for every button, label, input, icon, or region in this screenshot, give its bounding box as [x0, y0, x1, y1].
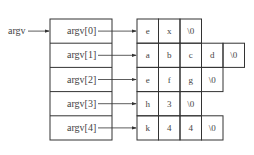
char-value: \0 [187, 99, 195, 109]
pointer-array-item: argv[2] [67, 74, 96, 85]
char-value: \0 [209, 123, 217, 133]
argv-label: argv [8, 25, 26, 36]
char-value: e [146, 26, 150, 36]
char-value: e [146, 75, 150, 85]
char-value: h [146, 99, 151, 109]
char-value: \0 [187, 26, 195, 36]
char-value: k [146, 123, 151, 133]
char-value: 3 [167, 99, 172, 109]
pointer-array-item: argv[0] [67, 25, 96, 36]
char-value: 4 [167, 123, 172, 133]
char-value: b [167, 50, 172, 60]
pointer-array-item: argv[3] [67, 98, 96, 109]
char-value: a [146, 50, 150, 60]
pointer-array-item: argv[4] [67, 122, 96, 133]
argv-diagram: argvargv[0]argv[1]argv[2]argv[3]argv[4]e… [0, 0, 254, 155]
char-value: \0 [230, 50, 238, 60]
char-value: g [189, 75, 194, 85]
char-value: c [189, 50, 193, 60]
pointer-array-item: argv[1] [67, 49, 96, 60]
char-value: 4 [189, 123, 194, 133]
char-value: d [210, 50, 215, 60]
char-value: f [168, 75, 171, 85]
char-value: \0 [209, 75, 217, 85]
char-value: x [167, 26, 172, 36]
